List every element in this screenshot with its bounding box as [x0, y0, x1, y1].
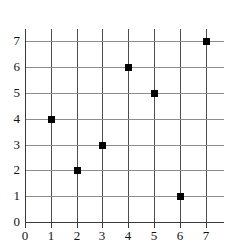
- grid-line-horizontal: [25, 145, 224, 146]
- x-tick-label: 4: [120, 229, 136, 243]
- data-point: [125, 64, 132, 71]
- grid-line-vertical: [128, 29, 129, 222]
- x-tick-label: 7: [198, 229, 214, 243]
- scatter-plot: 0123456701234567: [0, 0, 241, 250]
- data-point: [203, 38, 210, 45]
- grid-line-horizontal: [25, 170, 224, 171]
- y-tick-label: 2: [4, 163, 20, 177]
- y-tick-label: 0: [4, 215, 20, 229]
- grid-line-horizontal: [25, 196, 224, 197]
- x-tick-label: 1: [43, 229, 59, 243]
- y-tick-label: 7: [4, 34, 20, 48]
- y-tick-label: 4: [4, 112, 20, 126]
- grid-line-vertical: [51, 29, 52, 222]
- x-tick-label: 2: [69, 229, 85, 243]
- grid-line-vertical: [102, 29, 103, 222]
- data-point: [99, 142, 106, 149]
- y-axis-line: [25, 29, 26, 222]
- x-tick-label: 6: [172, 229, 188, 243]
- grid-line-horizontal: [25, 41, 224, 42]
- x-tick-label: 0: [17, 229, 33, 243]
- y-tick-label: 5: [4, 86, 20, 100]
- data-point: [151, 90, 158, 97]
- x-tick-label: 5: [146, 229, 162, 243]
- grid-line-horizontal: [25, 93, 224, 94]
- grid-line-vertical: [154, 29, 155, 222]
- x-axis-line: [25, 222, 224, 223]
- x-tick-label: 3: [94, 229, 110, 243]
- data-point: [177, 193, 184, 200]
- grid-line-vertical: [77, 29, 78, 222]
- y-tick-label: 1: [4, 189, 20, 203]
- grid-line-vertical: [206, 29, 207, 222]
- y-tick-label: 3: [4, 138, 20, 152]
- data-point: [48, 116, 55, 123]
- y-tick-label: 6: [4, 60, 20, 74]
- data-point: [74, 167, 81, 174]
